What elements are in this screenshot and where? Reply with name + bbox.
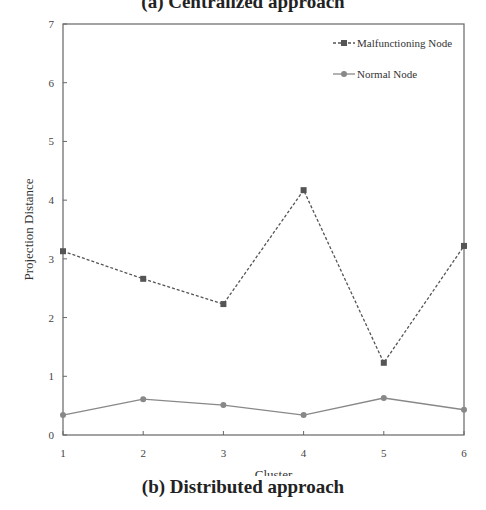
x-tick-label: 2 bbox=[140, 447, 146, 459]
figure-caption: (b) Distributed approach bbox=[0, 476, 486, 498]
data-point-circle bbox=[301, 412, 307, 418]
data-point-square bbox=[301, 187, 307, 193]
data-point-circle bbox=[220, 402, 226, 408]
legend-marker-square bbox=[341, 40, 347, 46]
plot-frame bbox=[63, 24, 464, 435]
x-tick-label: 6 bbox=[461, 447, 467, 459]
y-tick-label: 1 bbox=[49, 370, 55, 382]
data-point-square bbox=[140, 276, 146, 282]
data-point-square bbox=[220, 301, 226, 307]
x-tick-label: 4 bbox=[301, 447, 307, 459]
y-tick-label: 0 bbox=[49, 429, 55, 441]
legend-label: Normal Node bbox=[357, 68, 417, 80]
x-tick-label: 1 bbox=[60, 447, 66, 459]
series-line-malfunctioning bbox=[63, 190, 464, 363]
y-tick-label: 4 bbox=[49, 194, 55, 206]
data-point-square bbox=[461, 243, 467, 249]
legend-marker-circle bbox=[341, 71, 347, 77]
x-tick-label: 5 bbox=[381, 447, 387, 459]
data-point-circle bbox=[140, 396, 146, 402]
data-point-circle bbox=[461, 407, 467, 413]
legend-label: Malfunctioning Node bbox=[357, 37, 452, 49]
y-tick-label: 2 bbox=[49, 312, 55, 324]
y-tick-label: 3 bbox=[49, 253, 55, 265]
data-point-square bbox=[60, 248, 66, 254]
data-point-square bbox=[381, 360, 387, 366]
x-axis-label: Cluster bbox=[255, 467, 293, 476]
data-point-circle bbox=[60, 412, 66, 418]
y-tick-label: 6 bbox=[49, 77, 55, 89]
y-tick-label: 7 bbox=[49, 18, 55, 30]
line-chart: 01234567123456ClusterProjection Distance… bbox=[0, 0, 486, 476]
y-axis-label: Projection Distance bbox=[21, 178, 36, 280]
data-point-circle bbox=[381, 395, 387, 401]
x-tick-label: 3 bbox=[221, 447, 227, 459]
y-tick-label: 5 bbox=[49, 135, 55, 147]
series-line-normal bbox=[63, 398, 464, 415]
